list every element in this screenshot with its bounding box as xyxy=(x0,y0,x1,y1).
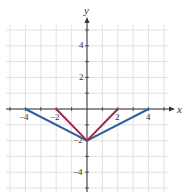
graph-canvas: x y −4 −2 2 4 4 2 −2 −4 xyxy=(0,0,186,195)
y-axis-label: y xyxy=(83,4,89,16)
axes: x y xyxy=(6,4,182,192)
x-axis-label: x xyxy=(176,103,182,115)
x-tick-label: 2 xyxy=(115,112,120,122)
y-tick-label: 4 xyxy=(79,40,84,50)
x-tick-label: −4 xyxy=(19,112,29,122)
y-axis-arrow-icon xyxy=(85,17,90,23)
x-tick-label: −2 xyxy=(50,112,60,122)
x-tick-label: 4 xyxy=(146,112,151,122)
y-tick-label: −4 xyxy=(73,167,83,177)
y-tick-label: 2 xyxy=(79,72,84,82)
x-axis-arrow-icon xyxy=(169,107,175,112)
